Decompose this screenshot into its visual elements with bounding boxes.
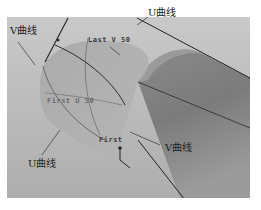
leader-u-top — [137, 17, 148, 25]
label-v-curve-right: V曲线 — [165, 143, 192, 153]
direction-arrow-icon — [120, 148, 130, 168]
label-v-curve-top-left: V曲线 — [10, 26, 37, 36]
origin-marker — [56, 38, 59, 41]
label-last-v: Last V 50 — [88, 37, 130, 44]
leader-v-right — [130, 132, 160, 145]
leader-u-bottom-left — [42, 130, 60, 155]
surface-diagram — [0, 0, 261, 210]
cylinder-body — [138, 49, 250, 198]
leader-v-top-left — [18, 42, 35, 65]
label-u-curve-top: U曲线 — [148, 8, 176, 18]
label-first-u: First U 50 — [47, 98, 94, 105]
label-u-curve-bottom-left: U曲线 — [28, 159, 56, 169]
label-first: First — [99, 137, 123, 144]
